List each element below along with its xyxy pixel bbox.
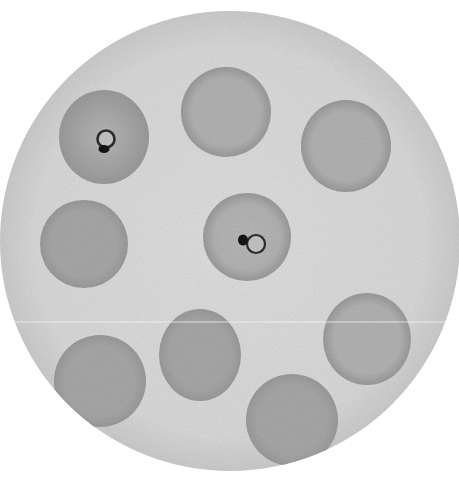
cell-body xyxy=(54,335,146,427)
red-blood-cell xyxy=(159,309,241,401)
infected-red-blood-cell xyxy=(203,193,291,281)
cell-body xyxy=(159,309,241,401)
cell-body xyxy=(181,67,271,157)
cell-body xyxy=(301,100,391,192)
cell-body xyxy=(323,293,411,385)
cell-body xyxy=(246,374,338,466)
red-blood-cell xyxy=(323,293,411,385)
microscope-field-illustration xyxy=(0,0,459,478)
red-blood-cell xyxy=(301,100,391,192)
infected-red-blood-cell xyxy=(59,90,149,184)
red-blood-cell xyxy=(246,374,338,466)
red-blood-cell xyxy=(54,335,146,427)
chromatin-dot-icon xyxy=(238,235,248,246)
red-blood-cell xyxy=(181,67,271,157)
chromatin-dot-icon xyxy=(99,145,110,153)
parasite-ring-icon xyxy=(247,235,265,253)
microscope-image: Blood smear microscopy field xyxy=(0,0,459,478)
parasite-ring-icon xyxy=(98,131,115,148)
red-blood-cell xyxy=(40,200,128,288)
cell-body xyxy=(40,200,128,288)
